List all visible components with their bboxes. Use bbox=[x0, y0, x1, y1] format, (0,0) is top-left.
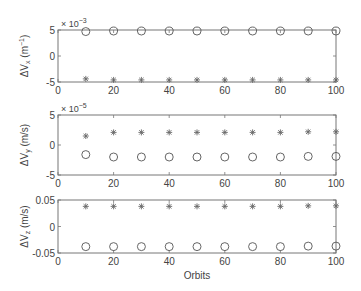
x-tick-label: 40 bbox=[164, 256, 176, 267]
figure: 02040608010050-5× 10−3ΔVx (m−1)020406080… bbox=[0, 0, 361, 291]
star-marker bbox=[305, 77, 311, 83]
x-tick-label: 80 bbox=[275, 178, 287, 189]
x-tick-label: 20 bbox=[108, 85, 120, 96]
star-marker bbox=[305, 129, 311, 135]
star-marker bbox=[250, 203, 256, 209]
x-tick-label: 0 bbox=[55, 256, 61, 267]
y-multiplier: × 10−5 bbox=[61, 102, 87, 114]
star-marker bbox=[194, 77, 200, 83]
star-marker bbox=[333, 77, 339, 83]
x-tick-label: 100 bbox=[328, 85, 345, 96]
x-tick-label: 80 bbox=[275, 256, 287, 267]
y-tick-label: 0 bbox=[49, 51, 55, 62]
star-marker bbox=[222, 77, 228, 83]
x-axis-label: Orbits bbox=[184, 270, 211, 281]
star-marker bbox=[166, 203, 172, 209]
subplot-dvz: 0204060801000.050-0.05ΔVz (m/s)Orbits bbox=[19, 195, 345, 281]
y-axis-label: ΔVz (m/s) bbox=[19, 205, 31, 247]
star-marker bbox=[111, 203, 117, 209]
y-tick-label: 0 bbox=[49, 140, 55, 151]
star-marker bbox=[111, 77, 117, 83]
y-tick-label: 5 bbox=[49, 25, 55, 36]
x-tick-label: 100 bbox=[328, 256, 345, 267]
x-tick-label: 60 bbox=[219, 178, 231, 189]
star-marker bbox=[305, 203, 311, 209]
y-tick-label: -5 bbox=[46, 170, 55, 181]
y-tick-label: 0.05 bbox=[36, 195, 56, 206]
star-marker bbox=[333, 129, 339, 135]
y-axis-label: ΔVx (m−1) bbox=[18, 35, 31, 78]
x-tick-label: 60 bbox=[219, 256, 231, 267]
star-marker bbox=[166, 77, 172, 83]
y-tick-label: 0 bbox=[49, 222, 55, 233]
star-marker bbox=[138, 203, 144, 209]
subplot-dvy: 02040608010050-5× 10−5ΔVy (m/s) bbox=[19, 102, 345, 189]
star-marker bbox=[83, 133, 89, 139]
x-tick-label: 40 bbox=[164, 178, 176, 189]
star-marker bbox=[222, 203, 228, 209]
star-marker bbox=[277, 203, 283, 209]
star-marker bbox=[111, 129, 117, 135]
y-tick-label: -0.05 bbox=[32, 248, 55, 259]
star-marker bbox=[166, 129, 172, 135]
star-marker bbox=[83, 76, 89, 82]
star-marker bbox=[83, 203, 89, 209]
star-marker bbox=[250, 77, 256, 83]
star-marker bbox=[277, 77, 283, 83]
axes-box bbox=[58, 115, 336, 175]
star-marker bbox=[194, 129, 200, 135]
y-axis-label: ΔVy (m/s) bbox=[19, 124, 32, 166]
axes-box bbox=[58, 30, 336, 82]
x-tick-label: 60 bbox=[219, 85, 231, 96]
x-tick-label: 40 bbox=[164, 85, 176, 96]
y-multiplier: × 10−3 bbox=[61, 17, 87, 29]
x-tick-label: 20 bbox=[108, 178, 120, 189]
subplot-dvx: 02040608010050-5× 10−3ΔVx (m−1) bbox=[18, 17, 345, 96]
y-tick-label: 5 bbox=[49, 110, 55, 121]
star-marker bbox=[277, 129, 283, 135]
x-tick-label: 20 bbox=[108, 256, 120, 267]
star-marker bbox=[250, 129, 256, 135]
star-marker bbox=[138, 77, 144, 83]
star-marker bbox=[138, 129, 144, 135]
x-tick-label: 100 bbox=[328, 178, 345, 189]
x-tick-label: 0 bbox=[55, 178, 61, 189]
star-marker bbox=[194, 203, 200, 209]
x-tick-label: 0 bbox=[55, 85, 61, 96]
y-tick-label: -5 bbox=[46, 77, 55, 88]
star-marker bbox=[333, 203, 339, 209]
star-marker bbox=[222, 129, 228, 135]
x-tick-label: 80 bbox=[275, 85, 287, 96]
